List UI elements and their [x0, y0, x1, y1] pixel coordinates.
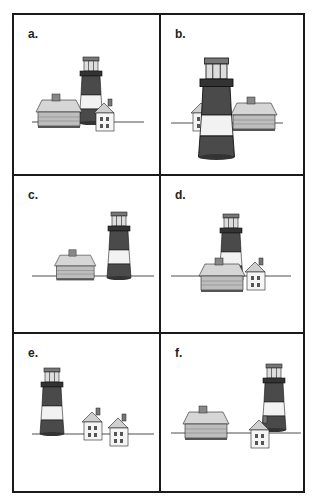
panel-a[interactable]: a.	[14, 15, 158, 172]
panel-c[interactable]: c.	[14, 176, 158, 333]
panel-e[interactable]: e.	[14, 334, 158, 491]
lighthouse-scene-illustration	[161, 334, 305, 491]
panel-b[interactable]: b.	[161, 15, 305, 172]
lighthouse-scene-illustration	[14, 334, 158, 491]
panel-d[interactable]: d.	[161, 176, 305, 333]
lighthouse-scene-illustration	[14, 176, 158, 333]
panel-f[interactable]: f.	[161, 334, 305, 491]
panel-grid: a. b. c. d.	[12, 13, 305, 493]
lighthouse-scene-illustration	[161, 176, 305, 333]
lighthouse-scene-illustration	[14, 15, 158, 172]
lighthouse-scene-illustration	[161, 15, 305, 172]
